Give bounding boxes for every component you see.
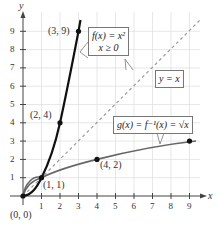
x-tick-label: 2 bbox=[58, 202, 63, 211]
y-axis-label: y bbox=[19, 1, 23, 11]
y-tick-label: 9 bbox=[10, 27, 15, 36]
point-label-2-4: (2, 4) bbox=[30, 110, 52, 120]
x-tick-label: 9 bbox=[187, 202, 192, 211]
y-tick-label: 8 bbox=[10, 45, 15, 54]
f-callout-line1: f(x) = x² bbox=[92, 30, 125, 42]
x-axis-arrow-icon bbox=[200, 194, 207, 199]
identity-callout-box: y = x bbox=[155, 70, 184, 88]
x-axis-label: x bbox=[208, 191, 212, 201]
x-tick-label: 6 bbox=[132, 202, 137, 211]
y-tick-label: 3 bbox=[10, 137, 15, 146]
y-tick-label: 6 bbox=[10, 82, 15, 91]
point-label-0-0: (0, 0) bbox=[10, 210, 32, 220]
f-callout-box: f(x) = x² x ≥ 0 bbox=[88, 27, 129, 56]
x-tick-label: 3 bbox=[76, 202, 81, 211]
f-callout-line2: x ≥ 0 bbox=[92, 42, 125, 54]
y-axis-arrow-icon bbox=[21, 11, 26, 18]
g-callout-pointer bbox=[157, 133, 164, 144]
y-tick-label: 7 bbox=[10, 63, 15, 72]
point-label-4-2: (4, 2) bbox=[100, 160, 122, 170]
g-callout-box: g(x) = f⁻¹(x) = √x bbox=[113, 116, 193, 134]
x-tick-label: 4 bbox=[95, 202, 100, 211]
y-tick-label: 2 bbox=[10, 155, 15, 164]
x-tick-label: 7 bbox=[150, 202, 155, 211]
y-tick-label: 5 bbox=[10, 100, 15, 109]
x-tick-label: 8 bbox=[169, 202, 174, 211]
function-curve bbox=[23, 20, 81, 196]
x-tick-label: 1 bbox=[39, 202, 44, 211]
point-label-3-9: (3, 9) bbox=[48, 26, 70, 36]
identity-callout-pointer bbox=[125, 59, 133, 70]
f-callout-pointer bbox=[80, 42, 88, 58]
y-tick-label: 4 bbox=[10, 118, 15, 127]
y-tick-label: 1 bbox=[10, 173, 15, 182]
point-label-1-1: (1, 1) bbox=[43, 180, 65, 190]
x-tick-label: 5 bbox=[113, 202, 118, 211]
